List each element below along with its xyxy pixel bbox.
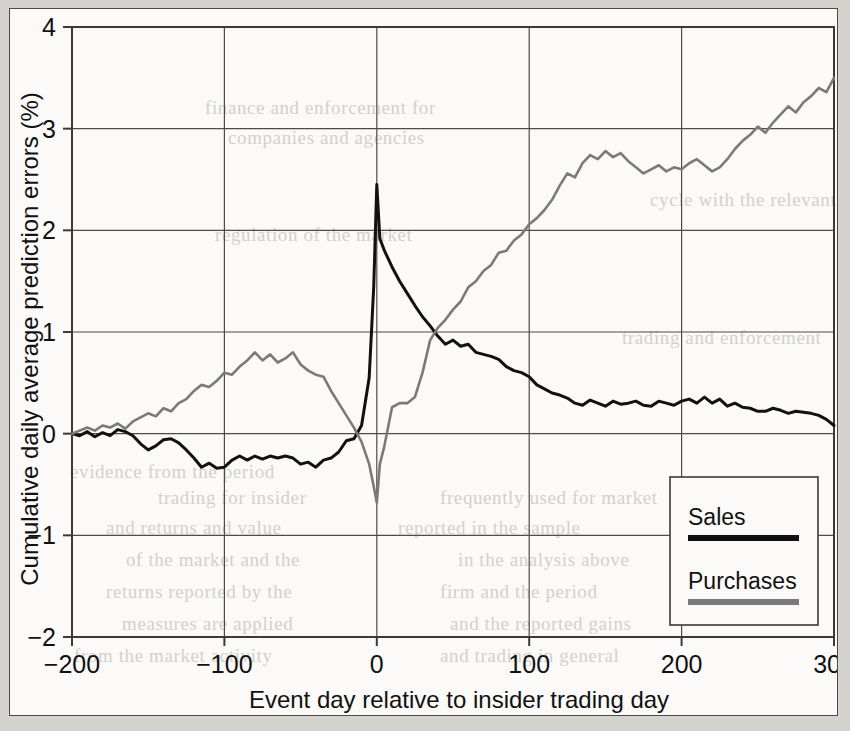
- x-tick-label: −100: [196, 650, 252, 678]
- y-tick-label: 0: [42, 420, 56, 448]
- y-tick-label: 4: [42, 13, 56, 41]
- y-axis-title: Cumulative daily average prediction erro…: [16, 92, 43, 586]
- x-axis-title: Event day relative to insider trading da…: [249, 686, 669, 713]
- legend-label-purchases[interactable]: Purchases: [688, 568, 797, 594]
- y-tick-label: 3: [42, 115, 56, 143]
- y-tick-label: 1: [42, 318, 56, 346]
- x-tick-label: −200: [44, 650, 100, 678]
- x-tick-label: 300: [813, 650, 838, 678]
- legend-label-sales[interactable]: Sales: [688, 504, 746, 530]
- series-line-sales: [72, 185, 834, 469]
- data-series-layer: [72, 78, 834, 503]
- x-axis-tick-labels: −200−1000100200300: [44, 650, 838, 678]
- chart-plot: −200−1000100200300 43210−1−2 SalesPurcha…: [10, 9, 838, 716]
- chart-legend[interactable]: SalesPurchases: [670, 477, 818, 625]
- x-tick-label: 200: [661, 650, 703, 678]
- x-tick-label: 100: [508, 650, 550, 678]
- y-tick-label: 2: [42, 216, 56, 244]
- y-tick-label: −2: [27, 623, 56, 651]
- series-line-purchases: [72, 78, 834, 503]
- page-background: finance and enforcement forcompanies and…: [0, 0, 850, 731]
- figure-panel: finance and enforcement forcompanies and…: [9, 8, 838, 716]
- x-tick-label: 0: [370, 650, 384, 678]
